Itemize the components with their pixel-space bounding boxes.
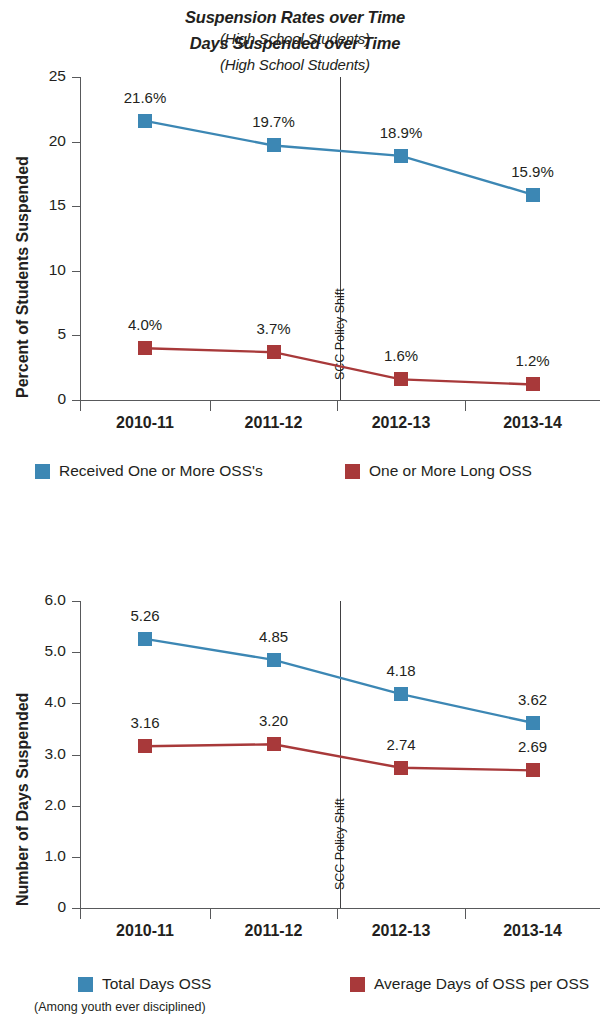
legend-label: One or More Long OSS <box>369 462 532 480</box>
legend-swatch-icon <box>345 464 360 479</box>
data-point-label: 2.74 <box>386 736 415 753</box>
data-point-marker <box>394 687 408 701</box>
data-point-label: 1.6% <box>384 347 418 364</box>
chart-footnote: (Among youth ever disciplined) <box>34 1000 206 1014</box>
data-point-marker <box>138 632 152 646</box>
series-line-0 <box>145 121 533 195</box>
data-point-marker <box>394 149 408 163</box>
data-point-label: 4.85 <box>259 628 288 645</box>
data-point-marker <box>267 138 281 152</box>
data-point-marker <box>267 345 281 359</box>
data-point-label: 21.6% <box>124 89 167 106</box>
data-point-marker <box>526 716 540 730</box>
data-point-marker <box>526 377 540 391</box>
data-point-label: 3.62 <box>518 691 547 708</box>
data-point-label: 5.26 <box>130 607 159 624</box>
data-point-marker <box>138 114 152 128</box>
data-point-label: 3.16 <box>130 714 159 731</box>
series-line-1 <box>145 348 533 384</box>
data-point-label: 18.9% <box>380 124 423 141</box>
data-point-label: 3.20 <box>259 712 288 729</box>
legend-swatch-icon <box>78 977 93 992</box>
legend-swatch-icon <box>35 464 50 479</box>
data-point-marker <box>267 737 281 751</box>
data-point-label: 3.7% <box>256 320 290 337</box>
legend-item: One or More Long OSS <box>345 462 532 480</box>
data-point-label: 4.0% <box>128 316 162 333</box>
days-suspended-chart: Days Suspended over Time(High School Stu… <box>0 500 590 1030</box>
suspension-rates-chart: Suspension Rates over Time(High School S… <box>0 0 590 500</box>
series-line-1 <box>145 744 533 770</box>
data-point-marker <box>267 653 281 667</box>
data-point-marker <box>526 188 540 202</box>
legend-item: Total Days OSS <box>78 975 211 993</box>
legend-label: Average Days of OSS per OSS <box>374 975 589 993</box>
data-point-marker <box>394 372 408 386</box>
legend-item: Average Days of OSS per OSS <box>350 975 589 993</box>
data-point-label: 19.7% <box>252 113 295 130</box>
data-point-marker <box>138 341 152 355</box>
data-point-label: 4.18 <box>386 662 415 679</box>
chart-subtitle: (High School Students) <box>0 56 590 73</box>
legend-label: Received One or More OSS's <box>59 462 263 480</box>
data-point-label: 1.2% <box>515 352 549 369</box>
legend-swatch-icon <box>350 977 365 992</box>
series-lines <box>0 0 590 500</box>
legend-item: Received One or More OSS's <box>35 462 263 480</box>
data-point-marker <box>526 763 540 777</box>
data-point-label: 15.9% <box>511 163 554 180</box>
data-point-marker <box>394 761 408 775</box>
series-lines <box>0 500 590 1030</box>
chart-title: Days Suspended over Time <box>0 34 590 53</box>
data-point-marker <box>138 739 152 753</box>
legend-label: Total Days OSS <box>102 975 211 993</box>
data-point-label: 2.69 <box>518 738 547 755</box>
series-line-0 <box>145 639 533 723</box>
